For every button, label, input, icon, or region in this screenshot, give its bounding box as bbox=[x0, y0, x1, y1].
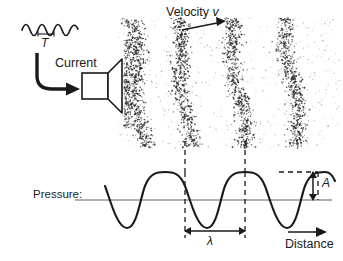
sine-wave-icon bbox=[22, 25, 78, 37]
pressure-label: Pressure: bbox=[33, 189, 82, 201]
velocity-label: Velocity v bbox=[166, 6, 219, 19]
amplitude-label: A bbox=[322, 177, 330, 189]
current-label: Current bbox=[55, 57, 97, 70]
velocity-symbol: v bbox=[213, 5, 219, 19]
sound-wave-diagram: T Current Velocity v Pressure: A λ Dista… bbox=[0, 0, 343, 261]
period-label: T bbox=[41, 37, 48, 49]
compression-peak-connectors bbox=[185, 141, 245, 172]
line-art-layer bbox=[0, 0, 343, 261]
double-arrow-horizontal-icon bbox=[184, 227, 246, 235]
velocity-text: Velocity bbox=[166, 5, 209, 19]
wavelength-label: λ bbox=[207, 235, 213, 247]
arrow-right-icon-distance bbox=[288, 227, 327, 237]
wavelength-guides bbox=[185, 172, 245, 238]
double-arrow-vertical-icon bbox=[309, 171, 317, 201]
distance-label: Distance bbox=[285, 238, 334, 251]
